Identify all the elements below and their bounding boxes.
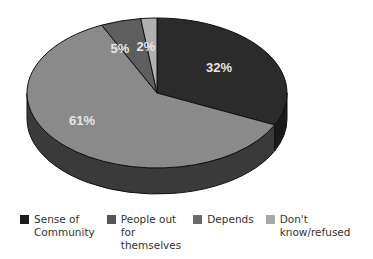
- legend-item-people-out-for-themselves: People out for themselves: [107, 213, 181, 252]
- legend-item-sense-of-community: Sense of Community: [20, 213, 95, 252]
- pie-chart: 32%61%5%2%: [0, 0, 373, 205]
- legend-label: Sense of Community: [34, 213, 95, 239]
- legend-label: Don't know/refused: [280, 213, 361, 239]
- legend-swatch: [193, 215, 202, 224]
- legend-label: Depends: [207, 213, 253, 226]
- legend-swatch: [107, 215, 116, 224]
- pie-label: 61%: [69, 113, 95, 128]
- pie-label: 32%: [206, 60, 232, 75]
- pie-label: 5%: [111, 41, 130, 56]
- pie-label: 2%: [137, 39, 156, 54]
- legend-label: People out for themselves: [121, 213, 181, 252]
- legend-item-dont-know-refused: Don't know/refused: [266, 213, 361, 252]
- legend-item-depends: Depends: [193, 213, 253, 252]
- legend-swatch: [266, 215, 275, 224]
- chart-legend: Sense of Community People out for themse…: [20, 213, 373, 252]
- legend-swatch: [20, 215, 29, 224]
